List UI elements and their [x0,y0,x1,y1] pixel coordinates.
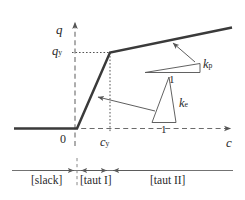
x-axis-label-text: c [226,135,232,150]
plastic-slope-subscript: p [209,61,213,70]
plastic-slope-base-label: 1 [169,74,175,85]
elastic-slope-callout-arrow [98,97,155,111]
figure-canvas: q c qy 0 cy kp 1 ke 1 [slack] [taut I] [… [0,0,245,200]
region-label-taut-2: [taut II] [150,175,185,187]
plastic-slope-label: kp [203,58,212,71]
yield-tension-label: qy [52,45,62,58]
yield-tension-subscript: y [58,48,62,57]
elastic-slope-subscript: e [185,100,188,109]
diagram-svg [0,0,245,200]
region-label-slack: [slack] [31,175,62,187]
plastic-slope-triangle [145,64,200,73]
elastic-slope-label: ke [179,97,188,110]
yield-elongation-label: cy [100,136,109,149]
x-axis-label: c [226,136,232,149]
yield-elongation-subscript: y [106,139,110,148]
plastic-slope-callout-arrow [173,43,195,62]
y-axis-label: q [56,23,63,36]
region-label-taut-1: [taut I] [80,175,112,187]
origin-label: 0 [60,133,66,145]
constitutive-curve [14,28,232,129]
elastic-slope-base-label: 1 [161,124,167,135]
